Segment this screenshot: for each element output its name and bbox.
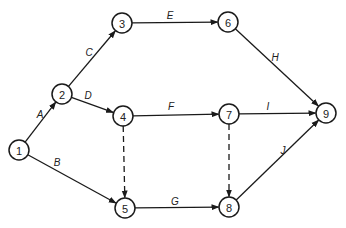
- event-node-label: 2: [59, 89, 65, 101]
- activity-arrow-i: [239, 113, 316, 114]
- activity-label-f: F: [168, 101, 175, 112]
- event-node-7: 7: [219, 104, 239, 124]
- dummy-activity-arrow: [123, 126, 125, 198]
- event-node-label: 4: [120, 111, 126, 123]
- activity-arrow-d: [71, 97, 113, 112]
- event-node-label: 6: [225, 17, 231, 29]
- network-diagram-canvas: ABCDEFGHIJ 123456789: [0, 0, 346, 228]
- activity-label-c: C: [85, 47, 93, 58]
- activity-label-h: H: [271, 52, 279, 63]
- activity-label-d: D: [84, 90, 91, 101]
- edge-labels-layer: ABCDEFGHIJ: [36, 10, 287, 207]
- event-node-label: 3: [119, 18, 125, 30]
- event-node-5: 5: [115, 198, 135, 218]
- activity-arrow-b: [28, 155, 116, 203]
- event-node-4: 4: [113, 106, 133, 126]
- activity-label-i: I: [267, 101, 270, 112]
- event-node-2: 2: [52, 84, 72, 104]
- event-node-3: 3: [112, 13, 132, 33]
- activity-arrow-f: [133, 114, 219, 116]
- event-node-label: 7: [226, 109, 232, 121]
- event-node-label: 1: [16, 145, 22, 157]
- activity-arrow-e: [132, 22, 218, 23]
- activity-label-j: J: [280, 145, 287, 156]
- event-node-1: 1: [9, 140, 29, 160]
- activity-label-e: E: [167, 10, 174, 21]
- activity-arrow-j: [236, 120, 318, 200]
- activity-arrow-c: [69, 31, 116, 86]
- activity-arrow-h: [235, 29, 318, 106]
- activity-label-a: A: [36, 109, 44, 120]
- event-node-label: 9: [323, 108, 329, 120]
- activity-label-g: G: [171, 196, 179, 207]
- event-node-9: 9: [316, 103, 336, 123]
- activity-label-b: B: [54, 157, 61, 168]
- event-node-6: 6: [218, 12, 238, 32]
- edges-layer: [25, 22, 318, 208]
- event-node-8: 8: [219, 197, 239, 217]
- activity-arrow-g: [135, 207, 219, 208]
- network-diagram: ABCDEFGHIJ 123456789: [0, 0, 346, 228]
- event-node-label: 8: [226, 202, 232, 214]
- event-node-label: 5: [122, 203, 128, 215]
